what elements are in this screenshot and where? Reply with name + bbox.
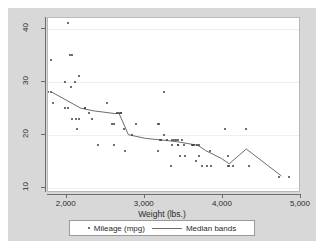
plot-inner xyxy=(48,18,299,191)
data-point xyxy=(64,107,66,109)
data-point xyxy=(177,144,179,146)
data-point xyxy=(179,155,181,157)
data-point xyxy=(228,165,230,167)
data-point xyxy=(181,139,183,141)
data-point xyxy=(113,144,115,146)
data-point xyxy=(67,22,69,24)
data-point xyxy=(184,155,186,157)
dot-marker-icon xyxy=(88,227,90,229)
y-axis-tick xyxy=(41,81,45,82)
data-point xyxy=(131,134,133,136)
data-point xyxy=(70,86,72,88)
data-point xyxy=(198,155,200,157)
x-axis-line xyxy=(47,194,300,195)
data-point xyxy=(120,112,122,114)
data-point xyxy=(210,165,212,167)
data-point xyxy=(183,144,185,146)
data-point xyxy=(71,54,73,56)
x-axis-tick xyxy=(144,194,145,198)
data-point xyxy=(198,144,200,146)
y-axis-label: 10 xyxy=(21,175,30,197)
data-point xyxy=(75,118,77,120)
data-point xyxy=(209,150,211,152)
y-axis-label: 40 xyxy=(21,16,30,38)
x-axis-label: 5,000 xyxy=(290,199,310,208)
data-point xyxy=(157,150,159,152)
data-point xyxy=(123,128,125,130)
chart-legend: Mileage (mpg) Median bands xyxy=(69,220,255,236)
data-point xyxy=(64,81,66,83)
data-point xyxy=(97,144,99,146)
x-axis-tick xyxy=(222,194,223,198)
median-bands-line xyxy=(48,18,299,191)
x-axis-title: Weight (lbs.) xyxy=(8,209,316,219)
data-point xyxy=(163,134,165,136)
legend-label-median-bands: Median bands xyxy=(186,224,236,233)
data-point xyxy=(163,91,165,93)
data-point xyxy=(78,118,80,120)
data-point xyxy=(88,112,90,114)
data-point xyxy=(106,102,108,104)
legend-item-mileage: Mileage (mpg) xyxy=(88,224,145,233)
y-axis-line xyxy=(45,17,46,192)
data-point xyxy=(227,155,229,157)
data-point xyxy=(224,128,226,130)
y-axis-tick xyxy=(41,187,45,188)
y-axis-label: 30 xyxy=(21,69,30,91)
y-axis-label: 20 xyxy=(21,122,30,144)
data-point xyxy=(78,75,80,77)
y-axis-tick xyxy=(41,28,45,29)
data-point xyxy=(160,139,162,141)
data-point xyxy=(135,123,137,125)
data-point xyxy=(206,165,208,167)
data-point xyxy=(166,139,168,141)
plot-area xyxy=(47,17,300,192)
legend-item-median-bands: Median bands xyxy=(152,224,236,233)
x-axis-label: 4,000 xyxy=(212,199,232,208)
data-point xyxy=(232,165,234,167)
line-marker-icon xyxy=(152,228,182,229)
data-point xyxy=(278,176,280,178)
data-point xyxy=(170,165,172,167)
data-point xyxy=(76,128,78,130)
x-axis-label: 2,000 xyxy=(56,199,76,208)
data-point xyxy=(74,81,76,83)
data-point xyxy=(158,123,160,125)
data-point xyxy=(245,128,247,130)
chart-figure: 10203040 2,0003,0004,0005,000 Weight (lb… xyxy=(8,8,316,241)
data-point xyxy=(124,150,126,152)
data-point xyxy=(67,107,69,109)
data-point xyxy=(195,160,197,162)
x-axis-label: 3,000 xyxy=(134,199,154,208)
data-point xyxy=(171,144,173,146)
data-point xyxy=(177,139,179,141)
data-point xyxy=(50,59,52,61)
data-point xyxy=(84,107,86,109)
x-axis-tick xyxy=(300,194,301,198)
data-point xyxy=(52,102,54,104)
data-point xyxy=(193,144,195,146)
x-axis-tick xyxy=(66,194,67,198)
data-point xyxy=(50,91,52,93)
data-point xyxy=(201,165,203,167)
data-point xyxy=(91,118,93,120)
data-point xyxy=(113,123,115,125)
data-point xyxy=(71,118,73,120)
data-point xyxy=(248,165,250,167)
y-axis-tick xyxy=(41,134,45,135)
legend-label-mileage: Mileage (mpg) xyxy=(94,224,145,233)
data-point xyxy=(288,176,290,178)
